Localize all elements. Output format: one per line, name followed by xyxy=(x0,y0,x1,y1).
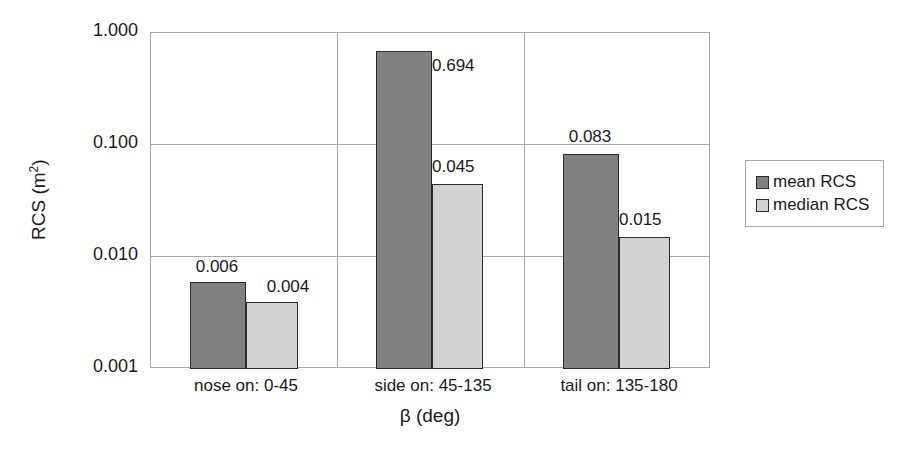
value-label-median-tail-on: 0.015 xyxy=(619,210,699,230)
legend-swatch-mean-icon xyxy=(756,176,769,189)
x-tick-label-tail-on: tail on: 135-180 xyxy=(526,376,712,396)
y-axis-title-text: RCS (m xyxy=(28,173,49,241)
y-tick-label-0p001: 0.001 xyxy=(60,356,138,377)
bar-median-nose-on xyxy=(246,302,298,369)
category-separator-2 xyxy=(524,33,525,367)
x-axis-title: β (deg) xyxy=(150,405,710,427)
category-separator-1 xyxy=(337,33,338,367)
y-tick-label-0p1: 0.100 xyxy=(60,132,138,153)
bar-mean-tail-on xyxy=(563,154,619,369)
y-axis-title-exponent: 2 xyxy=(26,166,40,173)
rcs-bar-chart: RCS (m2) 1.000 0.100 0.010 0.001 0.006 0… xyxy=(0,0,917,450)
legend-swatch-median-icon xyxy=(756,199,769,212)
legend-label-median-rcs: median RCS xyxy=(773,195,869,215)
legend-label-mean-rcs: mean RCS xyxy=(773,172,856,192)
legend-item-mean-rcs[interactable]: mean RCS xyxy=(756,172,869,192)
y-tick-label-1: 1.000 xyxy=(60,20,138,41)
bar-median-tail-on xyxy=(619,237,670,369)
value-label-mean-nose-on: 0.006 xyxy=(177,257,257,277)
bar-mean-side-on xyxy=(376,51,432,369)
y-axis-title-suffix: ) xyxy=(28,160,49,166)
y-axis-title: RCS (m2) xyxy=(18,0,58,400)
value-label-mean-tail-on: 0.083 xyxy=(550,127,630,147)
plot-area xyxy=(150,32,710,368)
legend: mean RCS median RCS xyxy=(745,160,884,227)
legend-item-median-rcs[interactable]: median RCS xyxy=(756,195,869,215)
x-tick-label-nose-on: nose on: 0-45 xyxy=(153,376,339,396)
x-tick-label-side-on: side on: 45-135 xyxy=(340,376,526,396)
value-label-mean-side-on: 0.694 xyxy=(432,56,512,76)
value-label-median-nose-on: 0.004 xyxy=(248,277,328,297)
bar-mean-nose-on xyxy=(190,282,246,369)
value-label-median-side-on: 0.045 xyxy=(432,157,512,177)
y-tick-label-0p01: 0.010 xyxy=(60,244,138,265)
bar-median-side-on xyxy=(432,184,483,369)
